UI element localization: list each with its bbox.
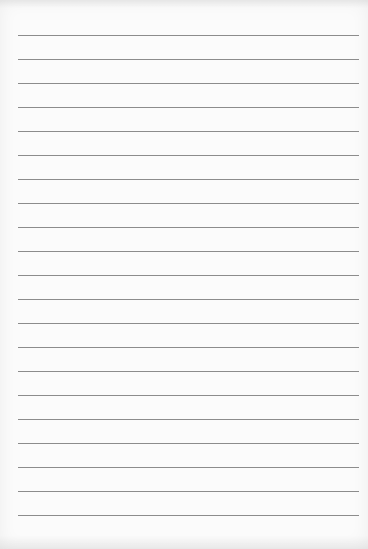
ruled-line — [18, 443, 359, 445]
ruled-line — [18, 371, 359, 373]
ruled-line — [18, 155, 359, 157]
ruled-line — [18, 131, 359, 133]
ruled-line — [18, 491, 359, 493]
ruled-line — [18, 83, 359, 85]
ruled-line — [18, 203, 359, 205]
ruled-line — [18, 467, 359, 469]
ruled-line — [18, 35, 359, 37]
ruled-line — [18, 419, 359, 421]
ruled-line — [18, 251, 359, 253]
ruled-line — [18, 347, 359, 349]
ruled-line — [18, 275, 359, 277]
ruled-line — [18, 299, 359, 301]
ruled-line — [18, 395, 359, 397]
ruled-line — [18, 59, 359, 61]
ruled-line — [18, 179, 359, 181]
ruled-line — [18, 323, 359, 325]
lined-paper-sheet — [0, 0, 368, 549]
ruled-line — [18, 515, 359, 517]
ruled-line — [18, 107, 359, 109]
ruled-line — [18, 227, 359, 229]
